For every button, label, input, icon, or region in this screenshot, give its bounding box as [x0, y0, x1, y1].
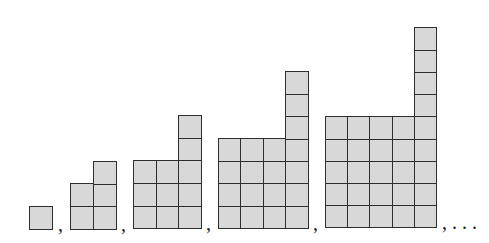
unit-cell: [325, 205, 349, 229]
comma-separator: ,: [206, 213, 211, 233]
tower-cell: [414, 27, 438, 51]
unit-cell: [178, 205, 202, 229]
unit-cell: [263, 161, 287, 185]
unit-cell: [392, 116, 416, 140]
unit-cell: [369, 205, 393, 229]
tower-cell: [178, 138, 202, 162]
comma-separator: ,: [58, 214, 63, 234]
unit-cell: [369, 160, 393, 184]
unit-cell: [392, 138, 416, 162]
unit-cell: [369, 116, 393, 140]
unit-cell: [285, 138, 309, 162]
unit-cell: [325, 116, 349, 140]
unit-cell: [392, 205, 416, 229]
comma-separator: ,: [313, 213, 318, 233]
unit-cell: [285, 206, 309, 230]
unit-cell: [93, 206, 117, 230]
unit-cell: [218, 161, 242, 185]
unit-cell: [156, 205, 180, 229]
unit-cell: [347, 205, 371, 229]
unit-cell: [414, 160, 438, 184]
unit-cell: [240, 161, 264, 185]
unit-cell: [218, 206, 242, 230]
unit-cell: [133, 183, 157, 207]
unit-cell: [240, 206, 264, 230]
unit-cell: [156, 183, 180, 207]
tower-cell: [285, 94, 309, 118]
unit-cell: [178, 160, 202, 184]
unit-cell: [263, 206, 287, 230]
unit-cell: [240, 183, 264, 207]
unit-cell: [414, 183, 438, 207]
unit-cell: [285, 161, 309, 185]
unit-cell: [347, 183, 371, 207]
unit-cell: [414, 138, 438, 162]
unit-cell: [133, 160, 157, 184]
unit-cell: [133, 205, 157, 229]
unit-cell: [93, 183, 117, 207]
unit-cell: [347, 138, 371, 162]
unit-cell: [70, 183, 94, 207]
tower-cell: [93, 161, 117, 185]
unit-cell: [240, 138, 264, 162]
ellipsis-continuation: , . . .: [442, 212, 477, 232]
unit-cell: [70, 206, 94, 230]
unit-cell: [29, 206, 53, 230]
unit-cell: [325, 138, 349, 162]
unit-cell: [156, 160, 180, 184]
unit-cell: [325, 160, 349, 184]
unit-cell: [347, 116, 371, 140]
tower-cell: [414, 49, 438, 73]
unit-cell: [218, 183, 242, 207]
block-sequence-diagram: ,,,,, . . .: [0, 0, 489, 243]
tower-cell: [414, 94, 438, 118]
unit-cell: [285, 183, 309, 207]
unit-cell: [414, 116, 438, 140]
tower-cell: [178, 115, 202, 139]
tower-cell: [414, 72, 438, 96]
unit-cell: [369, 138, 393, 162]
comma-separator: ,: [121, 214, 126, 234]
unit-cell: [178, 183, 202, 207]
unit-cell: [325, 183, 349, 207]
unit-cell: [218, 138, 242, 162]
unit-cell: [414, 205, 438, 229]
unit-cell: [392, 160, 416, 184]
unit-cell: [347, 160, 371, 184]
tower-cell: [285, 71, 309, 95]
unit-cell: [369, 183, 393, 207]
unit-cell: [263, 183, 287, 207]
unit-cell: [263, 138, 287, 162]
tower-cell: [285, 116, 309, 140]
unit-cell: [392, 183, 416, 207]
